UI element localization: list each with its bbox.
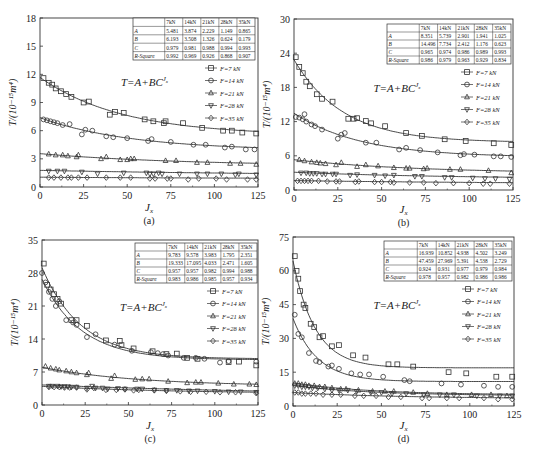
y-axis-title: T/(10⁻¹⁵m⁴)	[260, 297, 272, 345]
table-cell: 7kN	[168, 244, 177, 250]
table-cell: R-Square	[385, 274, 407, 280]
table-cell: 0.979	[439, 57, 451, 63]
legend: F=7 kNF=14 kNF=21 kNF=28 kNF=35 kN	[205, 65, 244, 122]
table-cell: 8.351	[421, 33, 433, 39]
table-cell: 0.624	[220, 36, 232, 42]
table-cell: 4.033	[204, 260, 216, 266]
x-axis-title: Jx	[400, 203, 409, 217]
legend-entry: F=21 kN	[476, 311, 501, 318]
x-tick-label: 100	[462, 409, 477, 420]
table-cell: 1.326	[202, 36, 214, 42]
legend: F=7 kNF=14 kNF=21 kNF=28 kNF=35 kN	[207, 288, 246, 345]
table-cell: 28kN	[476, 25, 488, 31]
x-tick-label: 100	[462, 193, 477, 204]
table-cell: 5.739	[439, 33, 451, 39]
table-cell: 0.623	[494, 41, 506, 47]
legend-entry: F=28 kN	[221, 325, 246, 332]
table-cell: 0.924	[419, 266, 431, 272]
legend-entry: F=7 kN	[219, 65, 241, 72]
x-tick-label: 75	[167, 408, 177, 419]
x-tick-label: 25	[80, 408, 90, 419]
chart-panel-d: 025507510012501530456075T/(10⁻¹⁵m⁴)Jx(d)…	[260, 232, 522, 446]
table-cell: 28kN	[476, 242, 488, 248]
table-cell: 2.471	[222, 260, 234, 266]
legend-entry: F=14 kN	[476, 298, 501, 305]
table-cell: 0.984	[495, 266, 507, 272]
series-f-21-kn	[46, 151, 258, 166]
y-tick-label: 9	[31, 97, 36, 108]
y-tick-label: 0	[33, 400, 38, 411]
table-cell: 4.538	[476, 258, 488, 264]
table-cell: 3.508	[184, 36, 196, 42]
table-cell: 7kN	[166, 19, 175, 25]
y-tick-label: 12	[280, 116, 290, 127]
legend-entry: F=35 kN	[476, 336, 501, 343]
y-axis-title: T/(10⁻¹⁵m⁴)	[261, 80, 273, 128]
y-tick-label: 30	[279, 333, 289, 344]
table-cell: 0.986	[476, 274, 488, 280]
table-cell: 35kN	[495, 242, 507, 248]
table-cell: 0.986	[495, 274, 507, 280]
y-tick-label: 75	[279, 232, 289, 243]
table-cell: 0.994	[222, 268, 234, 274]
panel-caption: (c)	[144, 433, 155, 445]
fit-equation: T=A+BCJx	[374, 81, 422, 94]
table-cell: 0.929	[476, 57, 488, 63]
table-cell: R-Square	[388, 57, 410, 63]
x-tick-label: 125	[507, 409, 522, 420]
table-cell: 4.938	[457, 250, 469, 256]
y-tick-label: 45	[279, 299, 289, 310]
chart-panel-b: 02550751001250612182430T/(10⁻¹⁵m⁴)Jx(b)7…	[261, 14, 521, 230]
table-cell: 7.734	[439, 41, 451, 47]
x-tick-label: 100	[207, 408, 222, 419]
legend-entry: F=14 kN	[219, 77, 244, 84]
table-cell: 5.391	[457, 258, 469, 264]
fit-line	[42, 367, 258, 384]
table-cell: A	[134, 28, 139, 34]
legend-entry: F=28 kN	[476, 323, 501, 330]
y-tick-label: 12	[26, 69, 36, 80]
y-tick-label: 0	[284, 401, 289, 412]
fit-equation: T=A+BCJx	[374, 298, 422, 311]
table-cell: 7kN	[419, 242, 428, 248]
table-cell: 0.982	[457, 274, 469, 280]
table-cell: 21kN	[457, 242, 469, 248]
legend: F=7 kNF=14 kNF=21 kNF=28 kNF=35 kN	[461, 69, 500, 126]
y-tick-label: 7	[33, 367, 38, 378]
table-cell: 0.865	[238, 28, 250, 34]
x-tick-label: 0	[292, 193, 297, 204]
x-axis-title: Jx	[400, 419, 409, 433]
table-cell: 1.149	[220, 28, 232, 34]
table-cell: 35kN	[240, 244, 252, 250]
table-cell: C	[135, 45, 139, 51]
table-cell: 0.993	[238, 45, 250, 51]
table-cell: 27.969	[438, 258, 453, 264]
y-axis: 0612182430	[280, 14, 297, 196]
table-cell: 0.993	[494, 49, 506, 55]
table-cell: 14kN	[439, 25, 451, 31]
table-cell: 0.963	[457, 57, 469, 63]
y-axis-title: T/(10⁻¹⁵m⁴)	[7, 78, 19, 126]
table-cell: 0.834	[494, 57, 506, 63]
y-tick-label: 24	[280, 48, 290, 59]
coefficients-table: 7kN14kN21kN28kN35kNA16.93910.8524.9384.5…	[384, 241, 512, 281]
table-cell: 2.351	[240, 252, 252, 258]
table-cell: 14kN	[438, 242, 450, 248]
table-cell: A	[385, 250, 390, 256]
table-cell: C	[137, 268, 141, 274]
legend-entry: F=21 kN	[221, 313, 246, 320]
chart-panel-c: 02550751001250714212835T/(10⁻¹⁵m⁴)Jx(c)7…	[9, 235, 266, 446]
table-cell: 14kN	[184, 19, 196, 25]
legend-entry: F=28 kN	[219, 102, 244, 109]
table-cell: 0.986	[421, 57, 433, 63]
panel-caption: (a)	[143, 215, 154, 227]
x-tick-label: 50	[122, 190, 132, 201]
y-tick-label: 18	[280, 82, 290, 93]
panel-caption: (b)	[398, 217, 410, 229]
legend-entry: F=35 kN	[475, 119, 500, 126]
table-cell: 9.783	[168, 252, 180, 258]
x-tick-label: 125	[506, 193, 521, 204]
table-cell: 2.412	[457, 41, 469, 47]
table-cell: 19.333	[168, 260, 183, 266]
table-cell: 0.981	[184, 45, 196, 51]
